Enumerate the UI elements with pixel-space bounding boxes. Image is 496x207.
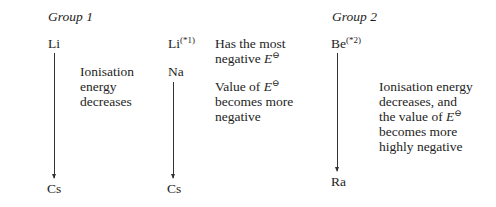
down-arrow-icon [54,53,55,178]
ionisation-energy-description: Ionisation energy decreases [80,64,134,109]
standard-state-icon: ⊖ [272,78,280,88]
value-becomes-negative-note: Value of E⊖ becomes more negative [215,79,293,124]
footnote-marker: (*1) [180,35,195,45]
footnote-marker: (*2) [346,35,361,45]
element-be-noted: Be(*2) [331,36,361,51]
description-line: energy [80,79,134,94]
note-line: negative [215,109,293,124]
description-line: becomes more [379,124,473,139]
element-li-noted: Li(*1) [168,36,195,51]
note-line: becomes more [215,94,293,109]
description-line: the value of E⊖ [379,109,473,124]
element-na: Na [168,64,184,79]
group-2-heading: Group 2 [332,9,377,24]
element-li: Li [48,36,60,51]
element-cs: Cs [47,181,61,196]
standard-state-icon: ⊖ [454,108,462,118]
group-1-heading: Group 1 [48,9,93,24]
standard-potential-symbol: E [264,79,272,94]
description-line: Ionisation energy [379,79,473,94]
element-ra: Ra [331,174,346,189]
note-line: Has the most [215,36,286,51]
group-2-description: Ionisation energy decreases, and the val… [379,79,473,154]
element-symbol: Li [168,36,180,51]
description-line: decreases, and [379,94,473,109]
note-line: Value of E⊖ [215,79,293,94]
element-cs: Cs [167,181,181,196]
down-arrow-icon [173,82,174,178]
down-arrow-icon [337,53,338,171]
description-line: highly negative [379,139,473,154]
description-line: decreases [80,94,134,109]
standard-state-icon: ⊖ [272,50,280,60]
most-negative-note: Has the most negative E⊖ [215,36,286,66]
note-line: negative E⊖ [215,51,286,66]
element-symbol: Be [331,36,346,51]
description-line: Ionisation [80,64,134,79]
